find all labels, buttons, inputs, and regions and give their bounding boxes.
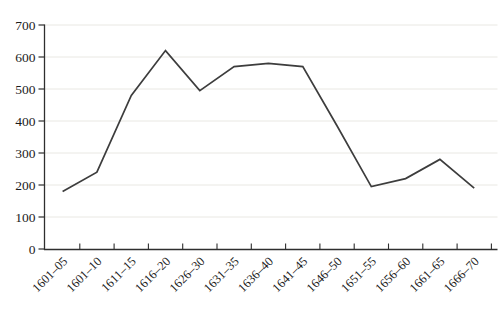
y-tick-label: 500 [15, 82, 36, 97]
y-tick-label: 600 [15, 50, 36, 65]
y-tick-label: 200 [15, 178, 36, 193]
y-tick-label: 700 [15, 18, 36, 33]
line-chart-figure: 01002003004005006007001601–051601–101611… [0, 0, 501, 315]
y-tick-label: 300 [15, 146, 36, 161]
y-tick-label: 400 [15, 114, 36, 129]
chart-canvas: 01002003004005006007001601–051601–101611… [0, 0, 501, 315]
y-tick-label: 100 [15, 210, 36, 225]
y-tick-label: 0 [29, 242, 36, 257]
